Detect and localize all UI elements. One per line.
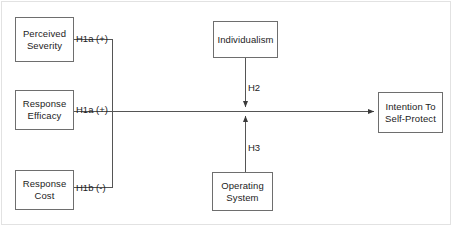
- edge-label-h1a-severity: H1a (+): [76, 33, 108, 44]
- node-intention-to-self-protect-label: Intention To Self-Protect: [383, 101, 438, 125]
- edge-line-h1a-severity: [74, 40, 113, 113]
- research-model-diagram: Perceived Severity Response Efficacy Res…: [0, 0, 454, 228]
- edge-line-h1b-cost: [74, 112, 113, 188]
- edge-label-h1b-cost: H1b (-): [76, 182, 106, 193]
- node-operating-system-label: Operating System: [219, 180, 266, 204]
- edge-label-h1a-efficacy: H1a (+): [76, 104, 108, 115]
- node-perceived-severity-label: Perceived Severity: [21, 28, 68, 52]
- edge-label-h3: H3: [248, 142, 260, 153]
- node-response-cost-label: Response Cost: [21, 178, 69, 202]
- node-operating-system: Operating System: [212, 172, 273, 211]
- node-individualism: Individualism: [213, 21, 278, 58]
- node-perceived-severity: Perceived Severity: [15, 17, 74, 62]
- node-response-efficacy: Response Efficacy: [15, 90, 74, 130]
- node-individualism-label: Individualism: [215, 34, 275, 46]
- node-response-cost: Response Cost: [15, 170, 74, 210]
- node-response-efficacy-label: Response Efficacy: [21, 98, 69, 122]
- node-intention-to-self-protect: Intention To Self-Protect: [378, 92, 443, 133]
- edge-label-h2: H2: [248, 82, 260, 93]
